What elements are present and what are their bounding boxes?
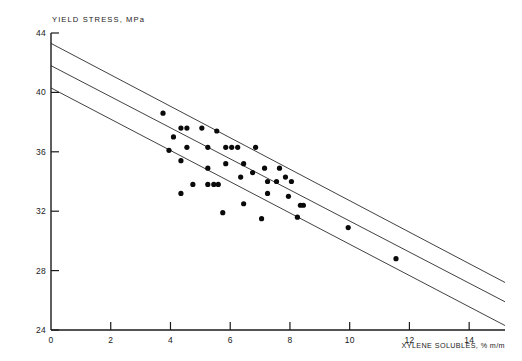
fit-lines-group [51, 43, 505, 325]
x-tick-label: 2 [108, 335, 113, 345]
data-point [214, 128, 219, 133]
y-tick-label: 36 [36, 147, 46, 157]
y-tick-label: 32 [36, 206, 46, 216]
data-point [262, 166, 267, 171]
data-point [265, 191, 270, 196]
data-point [171, 134, 176, 139]
data-point [241, 201, 246, 206]
data-point [205, 145, 210, 150]
data-point [223, 145, 228, 150]
data-point [216, 182, 221, 187]
x-tick-label: 6 [228, 335, 233, 345]
scatter-plot: 242832364044 02468101214 YIELD STRESS, M… [0, 0, 522, 361]
data-point [178, 191, 183, 196]
data-point [184, 125, 189, 130]
data-point [178, 125, 183, 130]
y-tick-label: 40 [36, 87, 46, 97]
data-point [211, 182, 216, 187]
data-point [190, 182, 195, 187]
data-point [166, 148, 171, 153]
data-point [223, 161, 228, 166]
data-point [199, 125, 204, 130]
data-point [235, 145, 240, 150]
chart-container: 242832364044 02468101214 YIELD STRESS, M… [0, 0, 522, 361]
x-tick-label: 10 [345, 335, 355, 345]
data-point [286, 194, 291, 199]
x-tick-label: 0 [48, 335, 53, 345]
y-tick-label: 44 [36, 28, 46, 38]
data-point [220, 210, 225, 215]
x-tick-label: 8 [287, 335, 292, 345]
x-tick-label: 4 [168, 335, 173, 345]
data-point [229, 145, 234, 150]
x-axis-title: XYLENE SOLUBLES, % m/m [402, 341, 505, 350]
data-point [274, 179, 279, 184]
data-point [277, 166, 282, 171]
data-point [250, 170, 255, 175]
data-point [241, 161, 246, 166]
data-point [346, 225, 351, 230]
y-tick-label: 28 [36, 266, 46, 276]
data-point [283, 174, 288, 179]
y-ticks-group: 242832364044 [36, 28, 59, 335]
data-point [205, 182, 210, 187]
data-point [289, 179, 294, 184]
data-point [295, 215, 300, 220]
fit-line-center-fit [51, 66, 505, 302]
data-point [393, 256, 398, 261]
data-point [184, 145, 189, 150]
data-point [253, 145, 258, 150]
data-point [301, 203, 306, 208]
fit-line-lower-band [51, 88, 505, 326]
data-points-group [160, 111, 398, 262]
data-point [238, 174, 243, 179]
data-point [259, 216, 264, 221]
y-tick-label: 24 [36, 325, 46, 335]
data-point [265, 179, 270, 184]
fit-line-upper-band [51, 43, 505, 282]
data-point [205, 166, 210, 171]
data-point [160, 111, 165, 116]
y-axis-title: YIELD STRESS, MPa [52, 15, 145, 24]
data-point [178, 158, 183, 163]
